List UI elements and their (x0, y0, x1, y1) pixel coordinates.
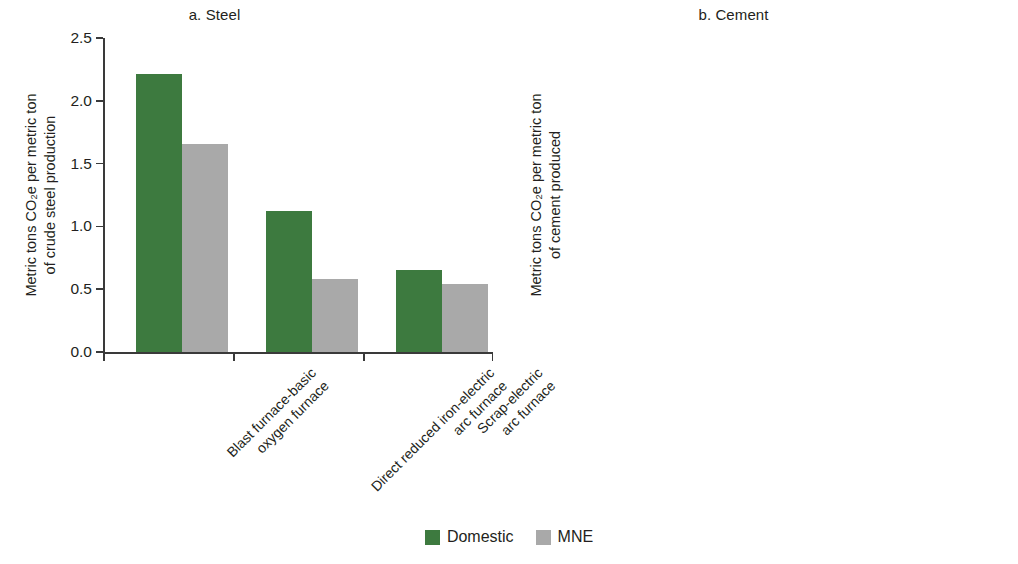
bar-group (136, 38, 228, 352)
y-axis-title-steel: Metric tons CO₂e per metric ton of crude… (22, 38, 60, 352)
panel-title-steel: a. Steel (0, 6, 469, 23)
y-tick-label-steel-2: 1.0 (70, 217, 92, 235)
y-axis-title-steel-line1: Metric tons CO₂e per metric ton (23, 93, 39, 296)
x-tick-steel-end (492, 352, 494, 361)
bar-domestic (266, 211, 312, 352)
panel-steel: a. Steel Metric tons CO₂e per metric ton… (0, 0, 509, 520)
bar-mne (312, 279, 358, 352)
legend-label-mne: MNE (558, 528, 594, 546)
x-tick-steel-2 (363, 352, 365, 361)
legend-item-domestic: Domestic (425, 528, 514, 546)
legend-item-mne: MNE (536, 528, 594, 546)
plot-area-steel: 0.00.51.01.52.02.5 (103, 38, 493, 352)
x-category-label-steel-0: Blast furnace-basicoxygen furnace (223, 364, 333, 474)
bar-domestic (136, 74, 182, 352)
y-axis-title-cement-line1: Metric tons CO₂e per metric ton (528, 93, 544, 296)
y-tick-label-steel-0: 0.0 (70, 343, 92, 361)
panel-title-cement: b. Cement (479, 6, 988, 23)
y-tick-steel-2 (96, 226, 103, 228)
y-axis-title-cement: Metric tons CO₂e per metric ton of cemen… (527, 38, 565, 352)
y-tick-label-steel-5: 2.5 (70, 29, 92, 47)
bar-mne (442, 284, 488, 352)
y-axis-line-steel (103, 38, 105, 352)
legend-swatch-domestic (425, 530, 440, 545)
chart-legend: DomesticMNE (0, 528, 1018, 546)
y-tick-steel-1 (96, 288, 103, 290)
legend-swatch-mne (536, 530, 551, 545)
bar-domestic (396, 270, 442, 352)
panel-cement: b. Cement Metric tons CO₂e per metric to… (509, 0, 1018, 520)
y-tick-steel-3 (96, 163, 103, 165)
x-axis-line-steel (103, 352, 493, 354)
y-tick-steel-5 (96, 37, 103, 39)
bar-mne (182, 144, 228, 352)
x-tick-steel-1 (233, 352, 235, 361)
y-axis-title-steel-line2: of crude steel production (41, 38, 60, 352)
y-tick-label-steel-4: 2.0 (70, 92, 92, 110)
legend-label-domestic: Domestic (447, 528, 514, 546)
y-tick-label-steel-1: 0.5 (70, 280, 92, 298)
y-tick-steel-0 (96, 351, 103, 353)
bar-group (396, 38, 488, 352)
y-tick-label-steel-3: 1.5 (70, 155, 92, 173)
bar-group (266, 38, 358, 352)
x-tick-steel-0 (103, 352, 105, 361)
figure-two-panel-bar-chart: a. Steel Metric tons CO₂e per metric ton… (0, 0, 1018, 564)
y-tick-steel-4 (96, 100, 103, 102)
y-axis-title-cement-line2: of cement produced (546, 38, 565, 352)
